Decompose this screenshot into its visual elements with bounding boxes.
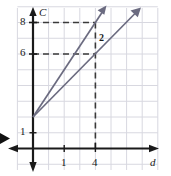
- x-tick-label-4: 4: [92, 157, 98, 168]
- y-tick-label-8: 8: [20, 16, 26, 27]
- y-axis-arrow-down: [29, 162, 36, 172]
- graph-figure: C d 8 6 1 1 4 2: [0, 0, 171, 176]
- vertical-gap-label: 2: [99, 33, 104, 43]
- y-axis-arrow-up: [29, 7, 36, 16]
- x-axis-label: d: [150, 157, 156, 168]
- grid-lines: [17, 7, 157, 170]
- x-axis-arrow-left: [8, 145, 18, 152]
- cursor-marker-icon: [0, 133, 10, 144]
- x-tick-label-1: 1: [61, 157, 67, 168]
- y-tick-label-1: 1: [20, 126, 26, 137]
- y-axis-label: C: [39, 7, 46, 18]
- y-tick-label-6: 6: [20, 47, 26, 58]
- axes: [8, 7, 159, 172]
